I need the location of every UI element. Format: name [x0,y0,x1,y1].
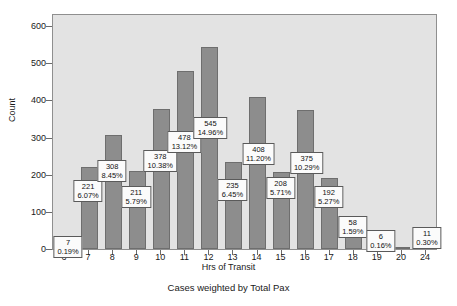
data-label-value: 375 [294,154,319,163]
data-label: 2115.79% [122,186,151,208]
y-tick-label: 500 [12,58,46,68]
data-label-value: 545 [198,119,223,128]
data-label: 2085.71% [266,177,295,199]
bar [177,71,194,249]
data-label-value: 192 [318,188,339,197]
data-label-value: 235 [222,181,243,190]
histogram-chart: Count 0100200300400500600 67891011121314… [0,0,457,306]
x-axis-title: Hrs of Transit [0,262,457,272]
data-label-value: 208 [270,179,291,188]
x-tick-label: 17 [318,252,340,262]
data-label-value: 308 [102,162,123,171]
data-label-percent: 0.16% [370,241,391,250]
data-label: 3088.45% [98,160,127,182]
x-tick-label: 19 [366,252,388,262]
data-label: 37510.29% [290,152,323,174]
x-tick-label: 24 [414,252,436,262]
data-label-value: 58 [342,218,363,227]
x-tick-label: 18 [342,252,364,262]
x-tick-label: 13 [221,252,243,262]
y-axis-title: Count [7,80,17,140]
bar [201,47,218,249]
bar [249,97,266,249]
data-label: 110.30% [412,227,441,249]
data-label-percent: 0.30% [416,238,437,247]
x-tick-label: 16 [294,252,316,262]
data-label-percent: 13.12% [172,142,197,151]
y-tick-label: 400 [12,95,46,105]
data-label-value: 211 [126,188,147,197]
data-label-percent: 6.45% [222,190,243,199]
x-tick-label: 12 [197,252,219,262]
data-label-value: 7 [57,238,78,247]
data-label-percent: 6.07% [77,191,98,200]
bar [153,109,170,249]
x-tick-label: 8 [101,252,123,262]
bar [393,247,410,249]
x-tick-label: 9 [125,252,147,262]
x-tick-label: 10 [149,252,171,262]
data-label-percent: 5.79% [126,197,147,206]
data-label: 60.16% [366,230,395,252]
bar [297,110,314,249]
data-label: 54514.96% [194,117,227,139]
data-label-value: 408 [246,145,271,154]
data-label: 37810.38% [144,150,177,172]
data-label-percent: 10.29% [294,163,319,172]
data-label-value: 221 [77,182,98,191]
data-label-value: 378 [148,152,173,161]
x-tick-label: 20 [390,252,412,262]
bar [105,135,122,249]
data-label-percent: 0.19% [57,247,78,256]
y-tick-label: 600 [12,21,46,31]
chart-caption: Cases weighted by Total Pax [0,282,457,293]
data-label-percent: 8.45% [102,171,123,180]
data-label-percent: 5.27% [318,197,339,206]
data-label: 581.59% [338,216,367,238]
data-label-percent: 11.20% [246,154,271,163]
y-tick-label: 100 [12,207,46,217]
bar [225,162,242,249]
y-tick-label: 200 [12,170,46,180]
data-label-percent: 5.71% [270,188,291,197]
data-label: 2216.07% [73,180,102,202]
y-tick-label: 300 [12,133,46,143]
data-label: 40811.20% [242,143,275,165]
data-label-value: 6 [370,232,391,241]
y-tick-label: 0 [12,244,46,254]
x-tick-label: 15 [270,252,292,262]
data-label-percent: 10.38% [148,161,173,170]
bar [129,171,146,249]
data-label: 70.19% [53,236,82,258]
x-tick-label: 14 [246,252,268,262]
x-tick-label: 11 [173,252,195,262]
data-label-percent: 1.59% [342,227,363,236]
data-label: 2356.45% [218,179,247,201]
data-label-value: 11 [416,229,437,238]
data-label-percent: 14.96% [198,128,223,137]
plot-area [52,14,437,250]
data-label: 1925.27% [314,186,343,208]
